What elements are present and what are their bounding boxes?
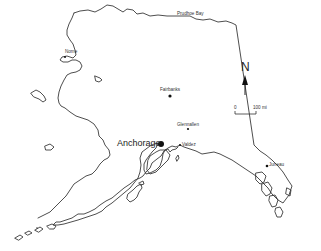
city-label-anchorage: Anchorage	[117, 139, 161, 148]
norton-sound-detail	[95, 76, 102, 82]
city-label-valdez: Valdez	[182, 143, 196, 148]
panhandle-island-5	[286, 188, 291, 196]
mainland-coastline	[53, 5, 292, 225]
fairbanks-marker	[168, 94, 171, 97]
panhandle-island-4	[275, 207, 283, 217]
north-arrow-head	[242, 75, 248, 85]
scale-bar-line	[235, 111, 256, 114]
city-label-fairbanks: Fairbanks	[160, 88, 180, 93]
kodiak-island	[127, 184, 142, 202]
nunivak-island	[45, 144, 54, 150]
pws-island	[176, 155, 179, 161]
city-label-juneau: Juneau	[269, 163, 284, 168]
north-arrow	[242, 75, 248, 95]
panhandle-island-3	[269, 195, 278, 207]
city-label-nome: Nome	[65, 50, 77, 55]
western-coastline	[38, 13, 110, 218]
aleutian-island-4	[15, 235, 23, 240]
aleutian-island-dot	[36, 227, 38, 229]
scale-bar	[235, 111, 256, 114]
nome-marker	[64, 56, 66, 58]
city-label-glennallen: Glennallen	[177, 123, 199, 128]
aleutian-island-3	[25, 231, 32, 235]
st-lawrence-island	[31, 90, 46, 102]
north-arrow-label: N	[241, 61, 250, 73]
city-label-prudhoe-bay: Prudhoe Bay	[177, 12, 204, 17]
scale-start-label: 0	[234, 106, 237, 111]
alaska-map	[0, 0, 321, 251]
juneau-marker	[266, 165, 269, 168]
valdez-marker	[179, 144, 181, 146]
scale-end-label: 100 mi	[253, 106, 267, 111]
glennallen-marker	[187, 128, 189, 130]
aleutian-island-2	[35, 227, 43, 232]
